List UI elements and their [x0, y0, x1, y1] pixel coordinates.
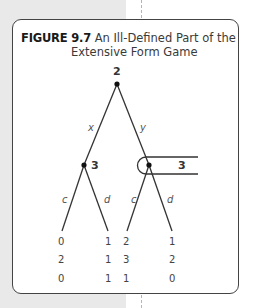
payoffs-leaf-x-c: 0 2 0 [58, 236, 64, 284]
action-label-left-c: c [62, 194, 68, 205]
payoff-value: 2 [123, 236, 129, 247]
action-label-right-c: c [131, 194, 137, 205]
action-label-x: x [87, 122, 94, 133]
root-player-label: 2 [113, 65, 121, 78]
payoff-value: 1 [105, 254, 111, 265]
payoff-value: 2 [169, 254, 175, 265]
game-tree: 2 3 3 x y c d c d 0 2 0 1 1 1 2 3 1 1 2 … [0, 0, 259, 308]
payoff-value: 1 [169, 236, 175, 247]
payoff-value: 0 [169, 273, 175, 284]
payoff-value: 0 [58, 273, 64, 284]
payoffs-leaf-x-d: 1 1 1 [105, 236, 111, 284]
tree-edges [62, 84, 198, 231]
action-label-left-d: d [104, 194, 111, 205]
payoff-value: 1 [105, 236, 111, 247]
right-decision-node [146, 162, 151, 167]
action-label-y: y [139, 122, 147, 133]
left-decision-node [81, 162, 86, 167]
info-set-player-label: 3 [178, 159, 186, 172]
action-label-right-d: d [167, 194, 174, 205]
payoff-value: 0 [58, 236, 64, 247]
payoff-value: 1 [123, 273, 129, 284]
payoff-value: 3 [123, 254, 129, 265]
root-node [114, 81, 119, 86]
payoffs-leaf-y-c: 2 3 1 [123, 236, 129, 284]
left-node-player-label: 3 [91, 159, 99, 172]
payoff-value: 1 [105, 273, 111, 284]
payoffs-leaf-y-d: 1 2 0 [169, 236, 175, 284]
payoff-value: 2 [58, 254, 64, 265]
